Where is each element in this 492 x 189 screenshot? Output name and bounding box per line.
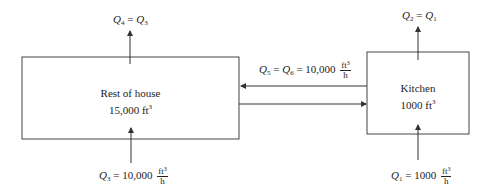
- q5-unit-den: h: [340, 71, 351, 80]
- q6-symbol: Q: [282, 63, 290, 75]
- rest-of-house-text: Rest of house 15,000 ft3: [22, 86, 239, 117]
- kitchen-volume-value: 1000 ft: [401, 99, 432, 111]
- q3-unit: ft3h: [157, 166, 168, 186]
- q2-symbol: Q: [402, 9, 410, 21]
- q4-rhs-subscript: 3: [144, 19, 148, 27]
- q1-label: Q1 = 1000 ft3h: [391, 166, 451, 186]
- q1-value: 1000: [414, 169, 436, 181]
- kitchen-name: Kitchen: [367, 81, 469, 95]
- q3-unit-exp: 3: [164, 166, 167, 172]
- q5-q6-label: Q5 = Q6 = 10,000 ft3h: [259, 60, 351, 80]
- rest-volume-value: 15,000 ft: [109, 104, 149, 116]
- q3-unit-den: h: [157, 177, 168, 186]
- q1-unit: ft3h: [441, 166, 452, 186]
- q5-equals: =: [270, 63, 282, 75]
- rest-volume-exp: 3: [149, 103, 153, 111]
- q1-equals: =: [402, 169, 414, 181]
- q1-symbol: Q: [391, 169, 399, 181]
- q4-label: Q4 = Q3: [113, 14, 148, 27]
- q5-unit: ft3h: [340, 60, 351, 80]
- q4-symbol: Q: [113, 13, 121, 25]
- q4-equals: =: [124, 13, 136, 25]
- kitchen-volume-exp: 3: [432, 98, 436, 106]
- q2-rhs-symbol: Q: [425, 9, 433, 21]
- q3-equals: =: [110, 169, 122, 181]
- q2-label: Q2 = Q1: [402, 10, 437, 23]
- kitchen-volume: 1000 ft3: [367, 95, 469, 112]
- q2-equals: =: [413, 9, 425, 21]
- q2-rhs-subscript: 1: [433, 15, 437, 23]
- q1-unit-den: h: [441, 177, 452, 186]
- q3-label: Q3 = 10,000 ft3h: [99, 166, 168, 186]
- q5-unit-exp: 3: [347, 60, 350, 66]
- kitchen-text: Kitchen 1000 ft3: [367, 81, 469, 112]
- rest-of-house-name: Rest of house: [22, 86, 239, 100]
- rest-of-house-volume: 15,000 ft3: [22, 100, 239, 117]
- q4-rhs-symbol: Q: [136, 13, 144, 25]
- q3-symbol: Q: [99, 169, 107, 181]
- q3-value: 10,000: [122, 169, 152, 181]
- q5-value: 10,000: [305, 63, 335, 75]
- q5-symbol: Q: [259, 63, 267, 75]
- q6-equals: =: [294, 63, 306, 75]
- q1-unit-exp: 3: [447, 166, 450, 172]
